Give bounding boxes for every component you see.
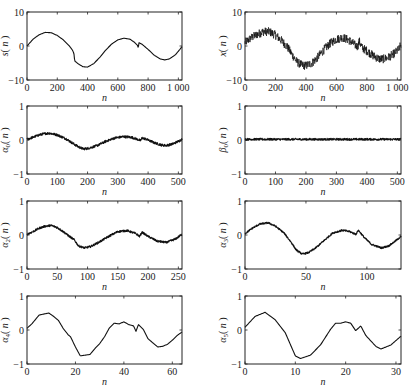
x-tick-label: 600 — [329, 82, 344, 93]
x-tick-label: 50 — [52, 271, 62, 282]
x-tick-label: 200 — [80, 176, 95, 187]
data-line — [245, 312, 401, 358]
x-axis-label: n — [321, 281, 326, 292]
x-tick-label: 30 — [391, 366, 401, 377]
axes-frame — [27, 106, 182, 174]
x-tick-label: 600 — [110, 82, 125, 93]
subplot-alpha2: 050100150200250−101nα2( n ) — [0, 196, 186, 293]
y-axis-label: s( n ) — [0, 36, 11, 57]
x-tick-label: 20 — [70, 366, 80, 377]
x-tick-label: 100 — [50, 176, 65, 187]
figure-grid: 02004006008001 000−10010ns( n )020040060… — [0, 0, 411, 387]
x-tick-label: 200 — [50, 82, 65, 93]
figure-svg: 02004006008001 000−10010ns( n )020040060… — [0, 0, 411, 387]
y-tick-label: 0 — [237, 325, 242, 336]
x-tick-label: 150 — [110, 271, 125, 282]
y-axis-label: β0( n ) — [217, 127, 230, 153]
x-tick-label: 400 — [359, 176, 374, 187]
x-axis-label: n — [321, 92, 326, 103]
subplot-alpha0: 0100200300400500−101nα0( n ) — [0, 101, 186, 198]
x-tick-label: 300 — [329, 176, 344, 187]
y-tick-label: −1 — [231, 359, 242, 370]
x-tick-label: 0 — [243, 366, 248, 377]
x-tick-label: 400 — [141, 176, 156, 187]
axes-frame — [27, 296, 182, 364]
x-tick-label: 20 — [341, 366, 351, 377]
data-line — [27, 225, 182, 249]
x-axis-label: n — [321, 186, 326, 197]
x-tick-label: 1 000 — [167, 82, 190, 93]
axes-frame — [245, 201, 401, 269]
data-line — [245, 27, 401, 69]
y-tick-label: 10 — [14, 7, 24, 18]
y-tick-label: 0 — [19, 135, 24, 146]
y-tick-label: 0 — [237, 230, 242, 241]
data-line — [27, 133, 182, 150]
x-axis-label: n — [321, 376, 326, 387]
x-tick-label: 200 — [141, 271, 156, 282]
x-tick-label: 0 — [243, 271, 248, 282]
x-tick-label: 200 — [268, 82, 283, 93]
x-tick-label: 0 — [25, 176, 30, 187]
y-tick-label: 1 — [19, 101, 24, 112]
x-axis-label: n — [102, 186, 107, 197]
x-tick-label: 500 — [390, 176, 405, 187]
x-tick-label: 250 — [171, 271, 186, 282]
x-tick-label: 0 — [25, 82, 30, 93]
y-axis-label: α2( n ) — [0, 222, 12, 247]
y-axis-label: α0( n ) — [0, 127, 12, 152]
data-line — [27, 313, 182, 356]
x-tick-label: 60 — [167, 366, 177, 377]
x-axis-label: n — [102, 92, 107, 103]
y-tick-label: 10 — [232, 7, 242, 18]
x-tick-label: 200 — [298, 176, 313, 187]
x-tick-label: 400 — [80, 82, 95, 93]
x-tick-label: 0 — [25, 271, 30, 282]
x-tick-label: 10 — [290, 366, 300, 377]
y-tick-label: −1 — [231, 169, 242, 180]
y-tick-label: 1 — [237, 196, 242, 207]
x-tick-label: 40 — [119, 366, 129, 377]
data-line — [27, 32, 182, 67]
x-tick-label: 500 — [171, 176, 186, 187]
subplot-alpha4: 0204060−101nα4( n ) — [0, 291, 182, 387]
y-tick-label: −1 — [13, 359, 24, 370]
y-tick-label: 1 — [19, 196, 24, 207]
subplot-alpha3: 050100−101nα3( n ) — [217, 196, 401, 293]
x-axis-label: n — [102, 281, 107, 292]
x-tick-label: 0 — [243, 176, 248, 187]
x-tick-label: 100 — [268, 176, 283, 187]
y-tick-label: 0 — [19, 325, 24, 336]
y-tick-label: 0 — [237, 135, 242, 146]
y-tick-label: −10 — [226, 75, 242, 86]
y-tick-label: 0 — [19, 41, 24, 52]
y-tick-label: −1 — [13, 169, 24, 180]
y-tick-label: 1 — [237, 291, 242, 302]
axes-frame — [245, 296, 401, 364]
data-line — [245, 222, 401, 254]
y-tick-label: 1 — [237, 101, 242, 112]
axes-frame — [27, 201, 182, 269]
subplot-x: 02004006008001 000−10010nx( n ) — [217, 7, 409, 104]
y-tick-label: −1 — [231, 264, 242, 275]
subplot-s: 02004006008001 000−10010ns( n ) — [0, 7, 190, 104]
subplot-beta0: 0100200300400500−101nβ0( n ) — [217, 101, 405, 198]
x-tick-label: 0 — [243, 82, 248, 93]
y-tick-label: −10 — [8, 75, 24, 86]
y-tick-label: 1 — [19, 291, 24, 302]
x-tick-label: 50 — [301, 271, 311, 282]
x-tick-label: 100 — [359, 271, 374, 282]
axes-frame — [245, 12, 401, 80]
y-axis-label: x( n ) — [217, 35, 229, 57]
y-tick-label: 0 — [237, 41, 242, 52]
x-tick-label: 800 — [141, 82, 156, 93]
y-tick-label: 0 — [19, 230, 24, 241]
axes-frame — [27, 12, 182, 80]
y-axis-label: α4( n ) — [0, 317, 12, 342]
x-tick-label: 400 — [298, 82, 313, 93]
x-tick-label: 300 — [110, 176, 125, 187]
x-tick-label: 800 — [359, 82, 374, 93]
y-axis-label: α5( n ) — [217, 317, 230, 342]
y-tick-label: −1 — [13, 264, 24, 275]
x-tick-label: 0 — [25, 366, 30, 377]
